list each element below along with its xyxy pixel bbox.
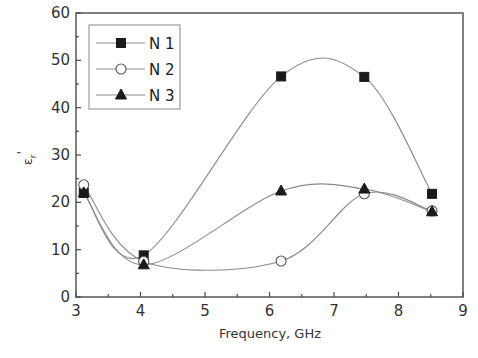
data-point-n2	[276, 256, 286, 266]
legend-label: N 1	[149, 35, 175, 53]
y-axis-title-sub: r	[28, 154, 38, 158]
y-tick-label: 0	[60, 288, 70, 306]
y-tick-label: 30	[51, 146, 70, 164]
x-tick-label: 3	[71, 302, 81, 320]
svg-text:εr': εr'	[14, 151, 38, 165]
y-tick-label: 40	[51, 99, 70, 117]
y-axis-title-prime: '	[14, 151, 29, 155]
x-tick-label: 8	[394, 302, 404, 320]
x-tick-label: 6	[265, 302, 275, 320]
x-axis: 3456789	[71, 292, 468, 320]
y-axis-title-main: ε	[20, 158, 35, 165]
legend-label: N 3	[149, 87, 175, 105]
legend-marker-icon	[116, 64, 126, 74]
x-tick-label: 9	[458, 302, 468, 320]
legend-marker-icon	[117, 39, 126, 48]
y-tick-label: 10	[51, 241, 70, 259]
y-axis-title: εr'	[14, 151, 38, 165]
chart: 3456789 0102030405060 Frequency, GHz εr'…	[0, 0, 478, 358]
y-tick-label: 20	[51, 193, 70, 211]
data-point-n1	[277, 72, 286, 81]
data-point-n1	[360, 72, 369, 81]
x-tick-label: 5	[200, 302, 210, 320]
legend: N 1N 2N 3	[89, 25, 180, 109]
y-tick-label: 50	[51, 51, 70, 69]
x-tick-label: 7	[329, 302, 339, 320]
y-tick-label: 60	[51, 4, 70, 22]
data-point-n1	[428, 189, 437, 198]
legend-label: N 2	[149, 61, 175, 79]
x-tick-label: 4	[136, 302, 146, 320]
x-axis-title: Frequency, GHz	[219, 326, 321, 341]
series-curve-n2	[84, 185, 432, 270]
series-curve-n3	[84, 184, 432, 265]
